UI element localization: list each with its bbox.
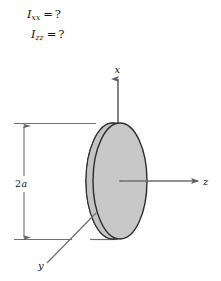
axis-label-z: z bbox=[202, 176, 209, 187]
axis-label-x: x bbox=[115, 64, 121, 75]
axis-label-y: y bbox=[37, 260, 44, 271]
axis-line-y bbox=[47, 213, 96, 263]
figure-root: Ixx=? Izz=? x bbox=[0, 0, 221, 281]
disk-diagram: x 2a z y bbox=[0, 0, 221, 281]
dimension-label-2a: 2a bbox=[15, 178, 28, 189]
